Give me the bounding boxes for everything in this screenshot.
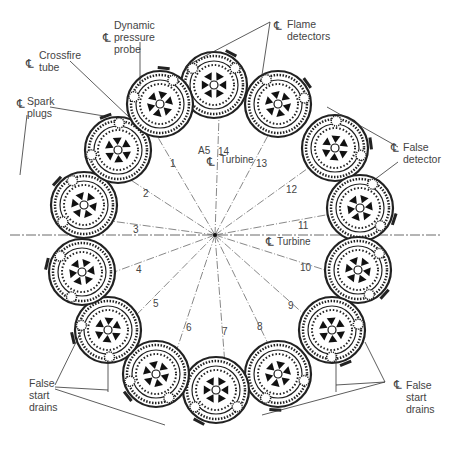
combustor-can [299,297,365,366]
can-number-7: 7 [222,326,228,337]
can-number-10: 10 [300,262,311,273]
radial-line [215,235,334,273]
radial-line [215,213,338,235]
can-number-3: 3 [133,224,139,235]
combustor-can [245,341,311,410]
centerline-symbol-turbine-top: ℄ [207,155,215,169]
can-number-9: 9 [288,300,294,311]
can-number-4: 4 [136,264,142,275]
can-number-5: 5 [153,298,159,309]
can-number-2: 2 [143,188,149,199]
combustor-can [46,239,115,305]
label-flame-detectors: Flame detectors [287,18,330,42]
can-number-14: 14 [218,146,229,157]
centerline-symbol-turbine-right: ℄ [266,235,274,249]
combustor-can [302,115,371,181]
centerline-symbol-false-detector: ℄ [391,141,399,155]
can-number-1: 1 [170,158,176,169]
centerline-symbol-probe: ℄ [103,31,111,45]
can-number-13: 13 [256,158,267,169]
can-number-8: 8 [257,321,263,332]
centerline-symbol-spark: ℄ [17,97,25,111]
can-number-11: 11 [298,220,308,231]
radial-line [215,235,308,318]
label-spark-plugs: Spark plugs [27,95,54,119]
radial-line [215,125,274,235]
combustor-cans [46,50,397,424]
combustor-can [183,357,249,425]
combustor-can [327,175,396,241]
label-false-start-drains-left: False start drains [29,377,58,413]
can-number-6: 6 [186,322,192,333]
radial-line [215,235,225,360]
label-false-start-drains-right: False start drains [406,379,435,415]
radial-line [127,235,215,324]
radial-line [175,235,215,354]
combustor-can [325,237,391,303]
radial-line [152,127,215,235]
label-false-detector: False detector [403,141,441,165]
centerline-symbol-flame: ℄ [274,19,282,33]
label-dynamic-pressure-probe: Dynamic pressure probe [114,19,155,55]
label-crossfire-tube: Crossfire tube [39,49,81,73]
centerline-symbol-crossfire: ℄ [26,57,34,71]
combustor-can [245,71,311,137]
can-number-12: 12 [286,184,297,195]
center-point [213,233,217,237]
centerline-symbol-drains-right: ℄ [394,378,402,392]
radial-line [215,110,219,235]
label-turbine-right: Turbine [277,236,311,247]
